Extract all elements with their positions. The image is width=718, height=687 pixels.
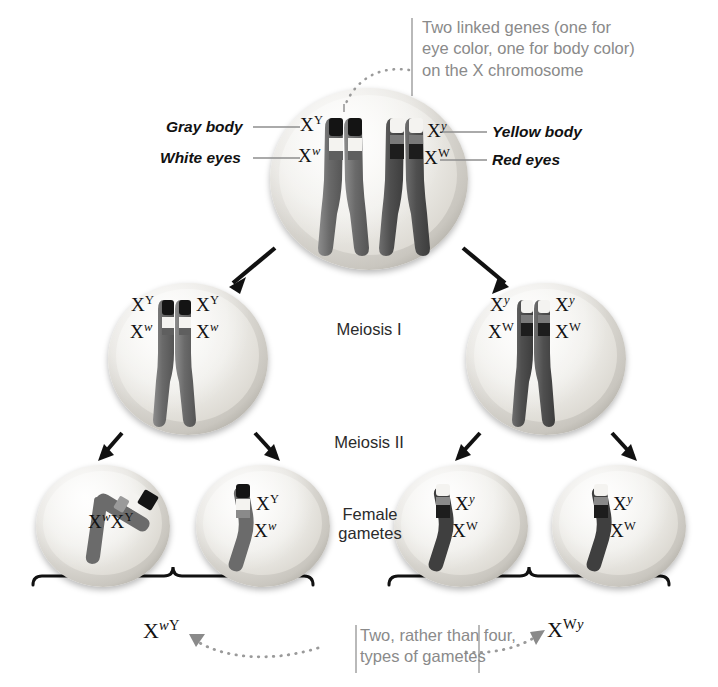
meiosis1-right-label-W-1: XW [488, 320, 514, 343]
bottom-arrowhead-right [530, 630, 545, 645]
female-gametes-line-2: gametes [324, 524, 416, 543]
female-gametes-line-1: Female [324, 505, 416, 524]
meiosis1-right-label-W-2: XW [555, 320, 581, 343]
bottom-arrowhead-left [189, 634, 205, 647]
meiosis1-left-label-w-1: Xw [130, 320, 152, 343]
gamete-3-genotype-bottom: XW [452, 519, 478, 542]
gamete-3-genotype-top: Xy [455, 492, 475, 515]
gamete-type-left: XwY [143, 617, 180, 644]
top-note-line-1: Two linked genes (one for [422, 17, 635, 38]
phenotype-white-eyes: White eyes [160, 149, 241, 167]
bottom-note-rule-left [355, 625, 357, 673]
arrow-right-cell-to-gamete-4 [612, 433, 637, 461]
meiosis1-left-label-Y-2: XY [196, 293, 219, 316]
figure-canvas: Two linked genes (one for eye color, one… [0, 0, 718, 687]
arrow-parent-to-left [229, 248, 275, 294]
meiosis1-right-label-y-2: Xy [555, 293, 575, 316]
meiosis1-right-label-y-1: Xy [490, 293, 510, 316]
phenotype-red-eyes: Red eyes [492, 151, 560, 169]
top-note: Two linked genes (one for eye color, one… [422, 17, 635, 81]
parent-label-gray-body: XY [300, 113, 323, 136]
parent-label-red-eyes: XW [424, 146, 450, 169]
gamete-type-right: XWy [547, 616, 584, 643]
gamete-2-genotype-bottom: Xw [254, 519, 276, 542]
bottom-note: Two, rather than four, types of gametes [360, 625, 474, 668]
bottom-dotted-left [195, 640, 318, 657]
top-note-line-2: eye color, one for body color) [422, 38, 635, 59]
gamete-4-genotype-top: Xy [613, 492, 633, 515]
gamete-2-genotype-top: XY [256, 492, 279, 515]
meiosis1-left-label-w-2: Xw [196, 320, 218, 343]
arrow-right-cell-to-gamete-3 [455, 433, 480, 461]
parent-label-yellow-body: Xy [427, 119, 447, 142]
parent-label-white-eyes: Xw [298, 144, 320, 167]
bottom-note-line-1: Two, rather than four, [360, 625, 474, 646]
stage-label-meiosis-1: Meiosis I [322, 320, 416, 339]
top-note-rule [411, 18, 413, 96]
bottom-note-line-2: types of gametes [360, 646, 474, 667]
arrow-left-cell-to-gamete-1 [98, 433, 122, 461]
arrow-parent-to-right [463, 248, 509, 294]
meiosis1-left-label-Y-1: XY [131, 293, 154, 316]
stage-label-female-gametes: Female gametes [324, 505, 416, 544]
top-note-line-3: on the X chromosome [422, 60, 635, 81]
phenotype-gray-body: Gray body [166, 118, 243, 136]
gamete-1-genotype: XwXY [88, 510, 134, 533]
phenotype-yellow-body: Yellow body [492, 123, 582, 141]
stage-label-meiosis-2: Meiosis II [320, 433, 418, 452]
arrow-left-cell-to-gamete-2 [255, 433, 280, 461]
gamete-4-genotype-bottom: XW [610, 519, 636, 542]
